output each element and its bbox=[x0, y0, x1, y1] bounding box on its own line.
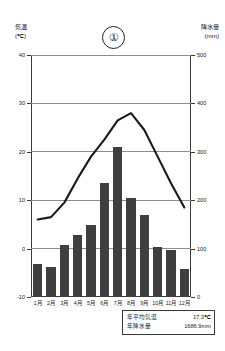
summary-row-avg-temp: 年平均気温 17.3℃ bbox=[127, 313, 211, 322]
right-tick-mark bbox=[191, 297, 195, 298]
summary-row-total-precip: 年降水量 1686.9mm bbox=[127, 322, 211, 331]
right-axis-tick-label: 300 bbox=[197, 149, 206, 155]
left-axis-title-text: 気温 bbox=[15, 23, 27, 30]
right-axis-tick-label: 0 bbox=[197, 294, 200, 300]
left-tick-mark bbox=[27, 297, 31, 298]
climate-summary-box: 年平均気温 17.3℃ 年降水量 1686.9mm bbox=[122, 310, 215, 335]
left-axis-tick-label: 0 bbox=[22, 246, 25, 252]
temperature-line bbox=[31, 55, 191, 297]
left-axis-tick-label: 10 bbox=[19, 197, 25, 203]
right-tick-mark bbox=[191, 249, 195, 250]
avg-temp-label: 年平均気温 bbox=[127, 313, 157, 322]
month-label: 10月 bbox=[151, 299, 164, 307]
right-tick-mark bbox=[191, 200, 195, 201]
month-label: 8月 bbox=[124, 299, 137, 307]
left-axis-tick-label: 40 bbox=[19, 52, 25, 58]
right-axis-tick-label: 400 bbox=[197, 100, 206, 106]
month-label: 4月 bbox=[71, 299, 84, 307]
right-axis-title-text: 降水量 bbox=[201, 23, 219, 30]
month-label: 12月 bbox=[178, 299, 191, 307]
left-axis-title: 気温 (℃) bbox=[15, 23, 27, 40]
left-axis-unit-text: (℃) bbox=[15, 32, 27, 41]
total-precip-label: 年降水量 bbox=[127, 322, 151, 331]
left-axis-tick-label: 20 bbox=[19, 149, 25, 155]
right-axis-title: 降水量 (mm) bbox=[201, 23, 219, 40]
right-axis-tick-label: 100 bbox=[197, 246, 206, 252]
month-label: 1月 bbox=[31, 299, 44, 307]
right-tick-mark bbox=[191, 152, 195, 153]
panel-number-badge: ① bbox=[102, 26, 125, 49]
month-label: 3月 bbox=[58, 299, 71, 307]
right-tick-mark bbox=[191, 103, 195, 104]
avg-temp-value: 17.3℃ bbox=[193, 313, 211, 322]
month-label: 9月 bbox=[138, 299, 151, 307]
month-label: 2月 bbox=[44, 299, 57, 307]
plot-area: -10010203040 0100200300400500 bbox=[31, 55, 191, 297]
month-label: 7月 bbox=[111, 299, 124, 307]
right-axis-unit-text: (mm) bbox=[201, 32, 219, 41]
month-label: 11月 bbox=[164, 299, 177, 307]
right-axis-tick-label: 500 bbox=[197, 52, 206, 58]
month-label: 5月 bbox=[84, 299, 97, 307]
left-axis-tick-label: 30 bbox=[19, 100, 25, 106]
month-label: 6月 bbox=[98, 299, 111, 307]
left-axis-tick-label: -10 bbox=[17, 294, 25, 300]
total-precip-value: 1686.9mm bbox=[184, 322, 211, 331]
right-axis-tick-label: 200 bbox=[197, 197, 206, 203]
right-tick-mark bbox=[191, 55, 195, 56]
climate-graph-figure: 気温 (℃) 降水量 (mm) ① -10010203040 010020030… bbox=[0, 0, 225, 351]
